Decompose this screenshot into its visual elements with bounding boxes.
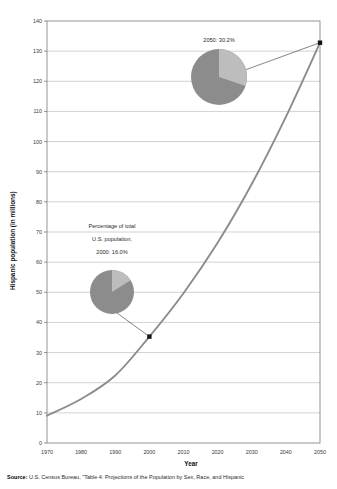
x-tick-label: 1970	[41, 449, 53, 455]
x-tick-label: 2010	[178, 449, 190, 455]
data-series-line	[47, 43, 320, 416]
y-tick-label: 30	[36, 350, 42, 356]
x-tick-label: 2040	[280, 449, 292, 455]
source-prefix: Source:	[7, 474, 27, 480]
x-tick-label: 2050	[314, 449, 326, 455]
y-tick-label: 140	[33, 18, 42, 24]
y-tick-label: 40	[36, 319, 42, 325]
pie-chart-2000	[90, 270, 134, 314]
x-tick-label: 2030	[246, 449, 258, 455]
source-note: Source: U.S. Census Bureau, "Table 4: Pr…	[7, 474, 337, 481]
y-axis-title: Hispanic population (in millions)	[9, 191, 17, 290]
callout-2000-line1: Percentage of total	[89, 223, 136, 229]
x-tick-label: 2020	[212, 449, 224, 455]
y-tick-label: 110	[33, 108, 42, 114]
x-tick-label: 1990	[109, 449, 121, 455]
source-text: U.S. Census Bureau, "Table 4: Projection…	[27, 474, 244, 480]
y-tick-label: 10	[36, 410, 42, 416]
y-tick-label: 60	[36, 259, 42, 265]
y-tick-label: 100	[33, 139, 42, 145]
chart-container: 0102030405060708090100110120130140 19701…	[0, 0, 337, 489]
callout-2000-line3: 2000: 16.0%	[96, 249, 127, 255]
leader-line-2000	[117, 313, 149, 337]
y-tick-label: 130	[33, 48, 42, 54]
y-tick-label: 0	[39, 440, 42, 446]
callout-2000-line2: U.S. population,	[92, 236, 132, 242]
y-tick-label: 90	[36, 169, 42, 175]
y-tick-label: 20	[36, 380, 42, 386]
x-tick-label: 2000	[143, 449, 155, 455]
grid-lines	[47, 51, 320, 413]
x-tick-label: 1980	[75, 449, 87, 455]
y-tick-label: 120	[33, 78, 42, 84]
callout-2050-label: 2050: 30.2%	[203, 37, 234, 43]
y-tick-marks	[44, 21, 47, 443]
x-axis-title: Year	[184, 460, 198, 467]
y-axis-tick-labels: 0102030405060708090100110120130140	[33, 18, 42, 446]
population-line-chart: 0102030405060708090100110120130140 19701…	[0, 0, 337, 489]
y-tick-label: 50	[36, 289, 42, 295]
y-tick-label: 80	[36, 199, 42, 205]
y-tick-label: 70	[36, 229, 42, 235]
pie-chart-2050	[191, 49, 247, 105]
x-axis-tick-labels: 197019801990200020102020203020402050	[41, 449, 326, 455]
